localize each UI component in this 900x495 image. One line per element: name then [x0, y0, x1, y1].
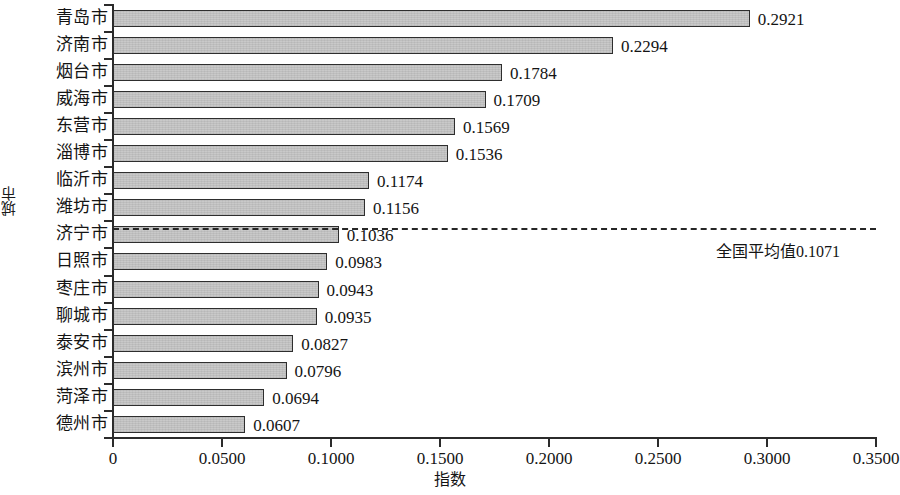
bar	[113, 37, 613, 54]
bar-value-label: 0.0935	[325, 309, 372, 326]
bar-value-label: 0.0796	[295, 363, 342, 380]
y-axis-tick	[104, 247, 113, 249]
x-axis-tick	[439, 439, 441, 447]
x-axis-tick	[548, 439, 550, 447]
y-axis-tick	[104, 193, 113, 195]
bar-value-label: 0.2294	[621, 38, 668, 55]
y-axis-category-label: 烟台市	[56, 63, 109, 80]
y-axis-category-label: 枣庄市	[56, 280, 109, 297]
bar-value-label: 0.0983	[335, 254, 382, 271]
bar	[113, 64, 502, 81]
x-axis-tick-label: 0.1500	[417, 450, 464, 467]
bar	[113, 308, 317, 325]
y-axis-tick	[104, 4, 113, 6]
x-axis-line	[112, 437, 877, 439]
y-axis-tick	[104, 58, 113, 60]
bar-value-label: 0.1174	[377, 173, 423, 190]
bar-value-label: 0.1569	[463, 119, 510, 136]
bar	[113, 10, 750, 27]
bar	[113, 91, 486, 108]
x-axis-tick	[330, 439, 332, 447]
y-axis-category-label: 威海市	[56, 90, 109, 107]
x-axis-tick-label: 0.2000	[526, 450, 573, 467]
bar-value-label: 0.0827	[301, 336, 348, 353]
y-axis-category-label: 青岛市	[56, 9, 109, 26]
bar	[113, 118, 455, 135]
y-axis-category-label: 泰安市	[56, 334, 109, 351]
bar-value-label: 0.1709	[494, 92, 541, 109]
bar	[113, 335, 293, 352]
x-axis-tick	[875, 439, 877, 447]
bar	[113, 281, 319, 298]
x-axis-tick	[221, 439, 223, 447]
y-axis-tick	[104, 275, 113, 277]
bar-value-label: 0.1784	[510, 65, 557, 82]
bar-value-label: 0.1156	[373, 200, 419, 217]
x-axis-tick-label: 0.3500	[853, 450, 900, 467]
y-axis-tick	[104, 166, 113, 168]
x-axis-tick-label: 0.0500	[199, 450, 246, 467]
x-axis-title: 指数	[0, 471, 900, 489]
bar-value-label: 0.0943	[327, 282, 374, 299]
x-axis-tick	[657, 439, 659, 447]
x-axis-tick	[766, 439, 768, 447]
y-axis-category-label: 德州市	[56, 415, 109, 432]
bar	[113, 416, 245, 433]
bar	[113, 253, 327, 270]
y-axis-tick	[104, 31, 113, 33]
x-axis-tick-label: 0.1000	[308, 450, 355, 467]
national-average-label: 全国平均值0.1071	[716, 243, 840, 261]
y-axis-category-label: 日照市	[56, 252, 109, 269]
x-axis-tick-label: 0.3000	[744, 450, 791, 467]
bar-value-label: 0.2921	[758, 11, 805, 28]
y-axis-category-label: 临沂市	[56, 171, 109, 188]
y-axis-tick	[104, 383, 113, 385]
x-axis-tick	[112, 439, 114, 447]
bar	[113, 172, 369, 189]
y-axis-tick	[104, 356, 113, 358]
bar	[113, 389, 264, 406]
y-axis-category-label: 潍坊市	[56, 198, 109, 215]
bar	[113, 362, 287, 379]
y-axis-category-label: 淄博市	[56, 144, 109, 161]
y-axis-tick	[104, 410, 113, 412]
y-axis-category-label: 济南市	[56, 36, 109, 53]
bar-chart: 城市 青岛市济南市烟台市威海市东营市淄博市临沂市潍坊市济宁市日照市枣庄市聊城市泰…	[0, 0, 900, 495]
y-axis-tick	[104, 302, 113, 304]
bar	[113, 145, 448, 162]
bar-value-label: 0.0607	[253, 417, 300, 434]
x-axis-tick-label: 0.2500	[635, 450, 682, 467]
y-axis-title: 城市	[2, 186, 26, 216]
bar-value-label: 0.1536	[456, 146, 503, 163]
y-axis-tick	[104, 85, 113, 87]
national-average-line	[113, 228, 876, 230]
x-axis-tick-label: 0	[109, 450, 118, 467]
y-axis-category-label: 济宁市	[56, 225, 109, 242]
y-axis-category-label: 菏泽市	[56, 388, 109, 405]
y-axis-category-label: 滨州市	[56, 361, 109, 378]
y-axis-category-label: 聊城市	[56, 307, 109, 324]
y-axis-tick	[104, 220, 113, 222]
y-axis-category-label: 东营市	[56, 117, 109, 134]
bar	[113, 199, 365, 216]
y-axis-tick	[104, 112, 113, 114]
y-axis-tick	[104, 329, 113, 331]
y-axis-tick	[104, 139, 113, 141]
bar-value-label: 0.0694	[272, 390, 319, 407]
